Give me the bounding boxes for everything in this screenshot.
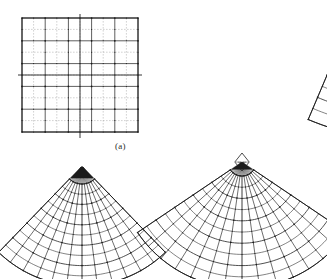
narrow-fan-border [308,9,327,140]
medium-fan-arcs [0,179,165,279]
medium-fan-node-dots [0,178,166,279]
figure-root: (a) [0,0,327,279]
panel-cartesian-grid [0,0,164,140]
cartesian-axis-lines [18,14,142,138]
wide-fan-border [138,170,327,279]
panel-wide-fan-grid [164,140,327,279]
medium-fan-apex-blob [70,166,94,178]
panel-narrow-fan-grid [164,0,327,140]
figure-sublabel: (a) [115,141,126,151]
panel-medium-fan-grid [0,140,164,279]
wide-fan-apex-blob [231,153,253,171]
